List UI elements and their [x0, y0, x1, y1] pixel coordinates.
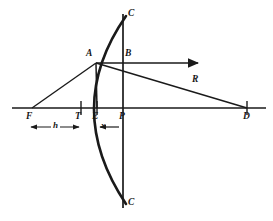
label-point-b: B — [125, 49, 131, 59]
label-radius-r: R — [192, 75, 198, 85]
label-point-f: F — [26, 112, 32, 122]
label-aperture-bottom-c: C — [128, 198, 134, 208]
label-point-a: A — [86, 49, 92, 59]
parabolic-mirror-curve — [94, 16, 126, 204]
label-dimension-h: h — [51, 121, 60, 130]
radius-line-a-to-d — [96, 63, 247, 108]
label-dimension-x: x — [101, 121, 106, 130]
diagram-canvas — [0, 0, 273, 221]
label-point-p: P — [119, 112, 125, 122]
label-point-d: D — [243, 112, 250, 122]
label-point-t: T — [75, 112, 81, 122]
label-point-e: E — [92, 112, 98, 122]
ray-focus-to-a — [32, 63, 96, 108]
label-aperture-top-c: C — [128, 9, 134, 19]
optics-diagram-figure: F T E P D A B C C R h x — [0, 0, 273, 221]
